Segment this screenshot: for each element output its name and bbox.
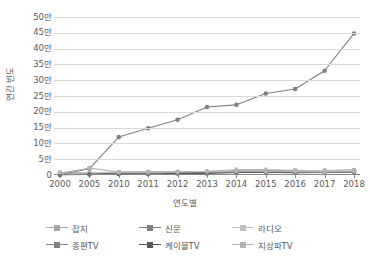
y-axis-tick-label: 50만: [14, 13, 52, 22]
y-axis-tick-label: 0: [14, 171, 52, 180]
y-axis-tick-label: 35만: [14, 60, 52, 69]
legend-item-label: 지상파TV: [258, 239, 325, 251]
legend-item-label: 케이블TV: [165, 239, 232, 251]
legend-row-1: 잡지신문라디오: [0, 219, 370, 236]
legend-row-2: 종편TV케이블TV지상파TV: [0, 236, 370, 253]
x-axis-tick-label: 2018: [343, 179, 365, 189]
legend-marker-icon: [232, 223, 254, 232]
x-axis-tick-label: 2013: [196, 179, 218, 189]
x-axis-tick-label: 2000: [49, 179, 71, 189]
x-axis-tick-label: 2012: [167, 179, 189, 189]
legend-marker-icon: [139, 223, 161, 232]
x-axis-tick-labels: 2000200520102011201220132014201520162017…: [54, 179, 360, 193]
gridline: [54, 128, 360, 129]
x-axis-tick-label: 2016: [284, 179, 306, 189]
data-point: [234, 169, 239, 174]
gridline: [54, 49, 360, 50]
x-axis-tick-mark: [354, 175, 355, 178]
x-axis-tick-mark: [295, 175, 296, 178]
x-axis-tick-label: 2005: [79, 179, 101, 189]
y-axis-tick-label: 15만: [14, 123, 52, 132]
data-point: [87, 166, 92, 171]
x-axis-tick-mark: [89, 175, 90, 178]
legend-marker-icon: [46, 240, 68, 249]
y-axis-tick-label: 10만: [14, 139, 52, 148]
x-axis-tick-label: 2015: [255, 179, 277, 189]
x-axis-tick-mark: [325, 175, 326, 178]
data-point: [293, 87, 298, 92]
legend-item-종편TV[interactable]: 종편TV: [46, 239, 139, 251]
y-axis-tick-label: 30만: [14, 76, 52, 85]
chart-legend: 잡지신문라디오 종편TV케이블TV지상파TV: [0, 219, 370, 253]
legend-item-label: 잡지: [72, 222, 139, 234]
x-axis-tick-label: 2010: [108, 179, 130, 189]
data-point: [117, 135, 122, 140]
gridline: [54, 143, 360, 144]
gridline: [54, 96, 360, 97]
data-point: [205, 105, 210, 110]
gridline: [54, 159, 360, 160]
x-axis-tick-mark: [148, 175, 149, 178]
gridline: [54, 64, 360, 65]
x-axis-tick-mark: [266, 175, 267, 178]
legend-marker-icon: [139, 240, 161, 249]
legend-item-라디오[interactable]: 라디오: [232, 222, 325, 234]
gridline: [54, 33, 360, 34]
x-axis-tick-mark: [207, 175, 208, 178]
series-line: [60, 33, 354, 174]
x-axis-title: 연도별: [0, 196, 370, 208]
legend-item-label: 종편TV: [72, 239, 139, 251]
gridline: [54, 80, 360, 81]
x-axis-tick-label: 2014: [226, 179, 248, 189]
legend-item-label: 신문: [165, 222, 232, 234]
data-point: [322, 68, 327, 73]
y-axis-tick-label: 5만: [14, 155, 52, 164]
legend-item-지상파TV[interactable]: 지상파TV: [232, 239, 325, 251]
y-axis-tick-labels: 05만10만15만20만25만30만35만40만45만50만: [14, 0, 52, 190]
x-axis-tick-mark: [60, 175, 61, 178]
x-axis-tick-mark: [178, 175, 179, 178]
data-point: [234, 103, 239, 108]
x-axis-tick-mark: [236, 175, 237, 178]
legend-item-케이블TV[interactable]: 케이블TV: [139, 239, 232, 251]
x-axis-tick-label: 2017: [314, 179, 336, 189]
legend-marker-icon: [232, 240, 254, 249]
legend-marker-icon: [46, 223, 68, 232]
gridline: [54, 112, 360, 113]
y-axis-tick-label: 20만: [14, 107, 52, 116]
x-axis-tick-mark: [119, 175, 120, 178]
data-point: [175, 117, 180, 122]
series-종편TV: [58, 31, 357, 177]
legend-item-label: 라디오: [258, 222, 325, 234]
legend-item-잡지[interactable]: 잡지: [46, 222, 139, 234]
legend-item-신문[interactable]: 신문: [139, 222, 232, 234]
gridline: [54, 17, 360, 18]
plot-area: [54, 17, 360, 175]
y-axis-tick-label: 25만: [14, 92, 52, 101]
y-axis-tick-label: 40만: [14, 44, 52, 53]
line-chart: 연간 빈도 05만10만15만20만25만30만35만40만45만50만 200…: [0, 0, 370, 263]
y-axis-tick-label: 45만: [14, 28, 52, 37]
x-axis-tick-label: 2011: [137, 179, 159, 189]
